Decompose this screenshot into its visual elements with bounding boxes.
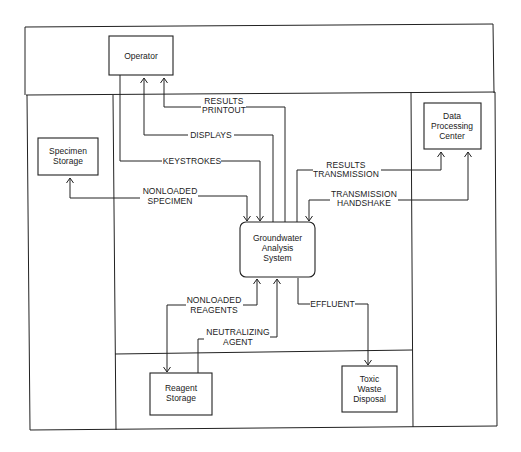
frame-bottom-border	[30, 426, 497, 430]
handshake-line-left	[309, 200, 330, 221]
toxic-waste-label-line3: Disposal	[353, 394, 386, 404]
entity-data-processing-center: Data Processing Center	[424, 103, 481, 149]
dpc-label-line3: Center	[439, 131, 465, 141]
nonloaded-specimen-label-line2: SPECIMEN	[147, 196, 192, 206]
effluent-line-right	[355, 304, 368, 365]
dpc-label-line1: Data	[443, 111, 461, 121]
flow-effluent: EFFLUENT	[298, 278, 372, 365]
displays-label: DISPLAYS	[190, 130, 232, 140]
keystrokes-label: KEYSTROKES	[163, 156, 222, 166]
results-printout-label-line2: PRINTOUT	[202, 105, 246, 115]
neutralizing-agent-label-line2: AGENT	[223, 337, 253, 347]
entity-specimen-storage: Specimen Storage	[38, 138, 98, 175]
reagent-storage-label-line2: Storage	[166, 393, 196, 403]
entity-operator: Operator	[109, 36, 173, 75]
nonloaded-reagents-line-right	[243, 279, 257, 305]
dpc-label-line2: Processing	[431, 121, 473, 131]
handshake-label-line2: HANDSHAKE	[337, 198, 391, 208]
operator-label: Operator	[124, 51, 158, 61]
toxic-waste-label-line1: Toxic	[360, 374, 380, 384]
flow-neutralizing-agent: NEUTRALIZING AGENT	[198, 279, 281, 373]
process-groundwater-analysis-system: Groundwater Analysis System	[240, 222, 315, 277]
frame-top-border	[25, 24, 493, 27]
results-printout-line-right	[246, 107, 285, 222]
left-column-divider	[113, 95, 116, 430]
entity-toxic-waste-disposal: Toxic Waste Disposal	[342, 366, 397, 412]
bottom-band-divider	[115, 350, 412, 354]
frame-right-edge	[495, 92, 497, 426]
neutralizing-agent-label-line1: NEUTRALIZING	[206, 327, 270, 337]
neutralizing-agent-line-left	[198, 339, 204, 373]
frame-left-edge	[27, 95, 30, 430]
nonloaded-reagents-label-line2: REAGENTS	[190, 305, 238, 315]
system-label-line3: System	[263, 253, 291, 263]
results-transmission-label-line2: TRANSMISSION	[313, 169, 379, 179]
effluent-label: EFFLUENT	[310, 299, 355, 309]
keystrokes-line-left	[120, 75, 162, 161]
frame-top-right-edge	[493, 24, 494, 93]
flow-nonloaded-reagents: NONLOADED REAGENTS	[164, 279, 261, 372]
nonloaded-reagents-label-line1: NONLOADED	[187, 295, 242, 305]
displays-line-right	[234, 135, 273, 222]
specimen-storage-label-line1: Specimen	[49, 146, 87, 156]
entity-reagent-storage: Reagent Storage	[150, 373, 212, 415]
nonloaded-specimen-line-right	[198, 196, 247, 221]
context-diagram: Operator Specimen Storage Data Processin…	[0, 0, 521, 452]
results-transmission-line-left	[297, 170, 313, 222]
keystrokes-line-right	[221, 161, 260, 221]
handshake-line-right	[398, 152, 468, 200]
system-label-line2: Analysis	[262, 243, 294, 253]
nonloaded-specimen-label-line1: NONLOADED	[143, 186, 198, 196]
neutralizing-agent-line-right	[270, 279, 277, 337]
system-label-line1: Groundwater	[253, 233, 302, 243]
specimen-storage-label-line2: Storage	[53, 156, 83, 166]
nonloaded-reagents-line-left	[167, 305, 186, 372]
effluent-line-left	[298, 278, 310, 304]
right-column-divider	[411, 92, 413, 427]
flow-results-transmission: RESULTS TRANSMISSION	[297, 152, 445, 222]
nonloaded-specimen-line-left	[70, 178, 140, 198]
frame-top-divider	[26, 92, 495, 95]
results-printout-line-left	[164, 78, 201, 107]
reagent-storage-label-line1: Reagent	[165, 383, 198, 393]
flow-nonloaded-specimen: NONLOADED SPECIMEN	[67, 178, 251, 221]
toxic-waste-label-line2: Waste	[358, 384, 382, 394]
